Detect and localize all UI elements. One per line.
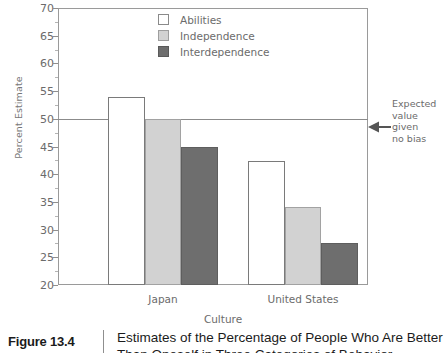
annotation-line-1: Expected [392,98,446,110]
y-axis-tick-label: 60 [28,57,54,70]
y-axis-tick-label: 50 [28,112,54,125]
bar-united-states-independence [285,207,322,285]
y-axis-tick-label: 40 [28,168,54,181]
y-axis-tick-label: 65 [28,29,54,42]
y-axis-tick-label: 70 [28,2,54,15]
legend-swatch-icon [158,30,169,41]
annotation-line-2: value [392,110,446,122]
legend: AbilitiesIndependenceInterdependence [158,12,308,60]
legend-item-label: Independence [180,30,255,42]
y-axis-tick-label: 25 [28,251,54,264]
bar-japan-abilities [108,97,145,285]
legend-item-abilities: Abilities [158,12,308,27]
annotation-line-4: no bias [392,133,446,145]
figure-13-4: Percent Estimate 2025303540455055606570 … [0,0,446,353]
legend-swatch-icon [158,46,169,57]
x-axis-title: Culture [0,313,446,325]
y-axis-tick-label: 20 [28,279,54,292]
expected-value-annotation: Expected value given no bias [392,98,446,144]
legend-item-label: Interdependence [180,46,269,58]
y-axis-tick-label: 35 [28,195,54,208]
y-axis-tick-labels: 2025303540455055606570 [22,8,54,285]
legend-item-label: Abilities [180,14,222,26]
caption-line-1: Estimates of the Percentage of People Wh… [117,330,446,347]
bar-japan-independence [145,119,182,285]
legend-item-interdependence: Interdependence [158,44,308,59]
legend-item-independence: Independence [158,28,308,43]
annotation-line-3: given [392,121,446,133]
caption-divider [103,330,104,353]
caption-line-2: Than Oneself in Three Categories of Beha… [117,347,446,353]
expected-value-reference-line [58,119,368,120]
bar-united-states-interdependence [321,243,358,285]
bar-japan-interdependence [181,147,218,286]
bar-united-states-abilities [248,161,285,285]
y-axis-tick-label: 30 [28,223,54,236]
x-axis-tick-label: Japan [148,293,177,305]
y-axis-tick-mark [53,285,58,286]
figure-number: Figure 13.4 [8,334,74,349]
figure-caption: Figure 13.4 Estimates of the Percentage … [0,330,446,353]
y-axis-tick-label: 45 [28,140,54,153]
x-axis-tick-label: United States [267,293,338,305]
caption-text: Estimates of the Percentage of People Wh… [117,330,446,353]
legend-swatch-icon [158,14,169,25]
y-axis-tick-label: 55 [28,85,54,98]
arrow-left-icon [368,118,392,130]
